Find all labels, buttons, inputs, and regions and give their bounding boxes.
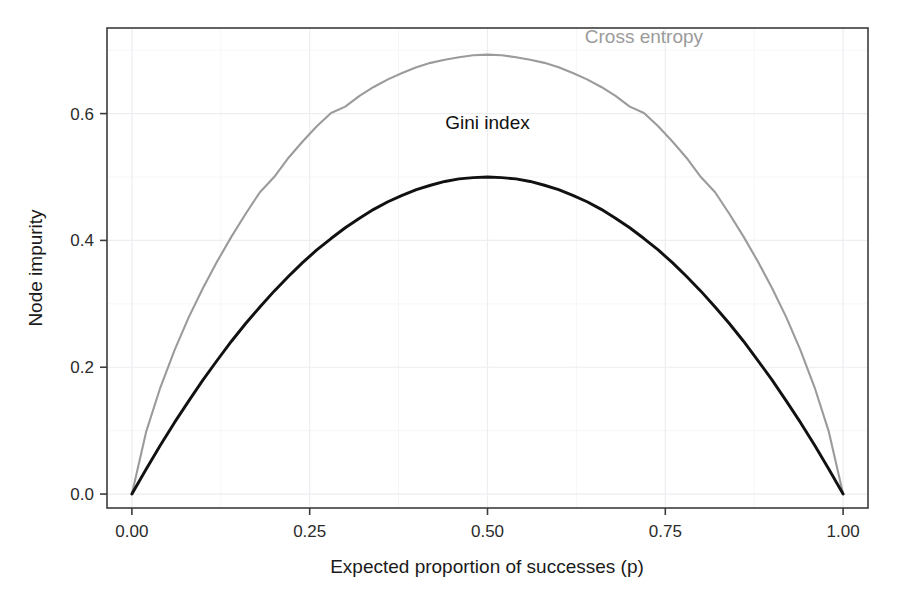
impurity-chart-svg: 0.000.250.500.751.000.00.20.40.6 Cross e… xyxy=(0,0,904,595)
x-tick-label: 0.00 xyxy=(115,522,148,541)
chart-figure: 0.000.250.500.751.000.00.20.40.6 Cross e… xyxy=(0,0,904,595)
x-tick-label: 0.50 xyxy=(471,522,504,541)
y-axis-title: Node impurity xyxy=(25,209,46,327)
x-axis-title: Expected proportion of successes (p) xyxy=(330,556,644,577)
x-tick-label: 0.75 xyxy=(649,522,682,541)
y-tick-label: 0.0 xyxy=(70,485,94,504)
series-label-cross-entropy: Cross entropy xyxy=(585,26,704,47)
y-tick-label: 0.4 xyxy=(70,231,94,250)
y-tick-label: 0.6 xyxy=(70,105,94,124)
x-tick-label: 1.00 xyxy=(827,522,860,541)
y-tick-label: 0.2 xyxy=(70,358,94,377)
series-label-gini-index: Gini index xyxy=(445,112,530,133)
x-tick-label: 0.25 xyxy=(293,522,326,541)
